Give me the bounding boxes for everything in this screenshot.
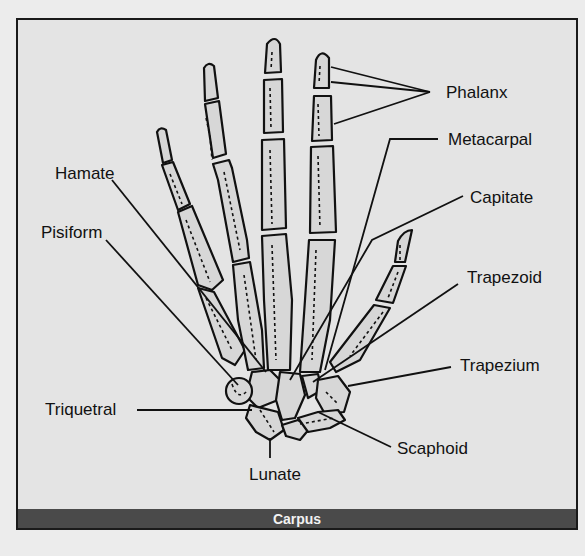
label-trapezoid: Trapezoid: [467, 269, 542, 286]
caption-text: Carpus: [273, 511, 321, 527]
caption-bar: Carpus: [18, 509, 576, 528]
label-metacarpal: Metacarpal: [448, 131, 532, 148]
label-scaphoid: Scaphoid: [397, 440, 468, 457]
index-finger-bones: [300, 53, 336, 372]
label-lunate: Lunate: [249, 466, 301, 483]
label-triquetral: Triquetral: [45, 401, 116, 418]
carpal-bones: [226, 370, 350, 440]
label-capitate: Capitate: [470, 189, 533, 206]
label-hamate: Hamate: [55, 165, 115, 182]
label-phalanx: Phalanx: [446, 84, 507, 101]
label-pisiform: Pisiform: [41, 224, 102, 241]
label-trapezium: Trapezium: [460, 357, 540, 374]
middle-finger-bones: [262, 39, 292, 370]
